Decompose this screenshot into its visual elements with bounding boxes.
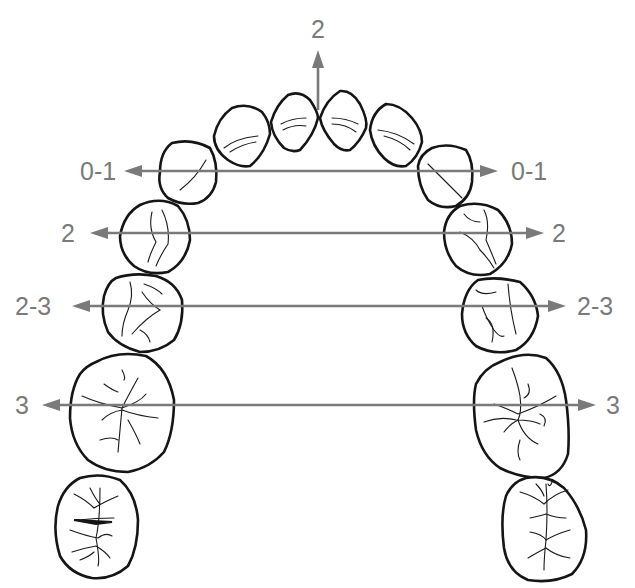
arrow-left-icon bbox=[90, 227, 108, 239]
midline-arrow: 2 bbox=[311, 15, 325, 110]
canine-left-label: 0-1 bbox=[80, 157, 116, 185]
first-premolar-left-label: 2 bbox=[61, 219, 75, 247]
tooth-central-incisor-left bbox=[271, 93, 318, 151]
tooth-first-molar-right bbox=[474, 355, 569, 478]
tooth-canine-right bbox=[418, 145, 472, 207]
arrow-right-icon bbox=[548, 300, 566, 312]
arrow-up-icon bbox=[312, 50, 324, 68]
tooth-second-premolar-left bbox=[103, 274, 183, 352]
tooth-second-premolar-right bbox=[462, 278, 538, 352]
tooth-lateral-incisor-left bbox=[214, 106, 270, 167]
dental-arch-diagram: 2 0-1 0-1 2 2 2-3 2-3 3 3 bbox=[0, 0, 635, 588]
canine-right-label: 0-1 bbox=[511, 157, 547, 185]
tooth-canine-left bbox=[159, 141, 216, 203]
arrow-left-icon bbox=[72, 300, 90, 312]
arrow-right-icon bbox=[578, 399, 596, 411]
tooth-first-premolar-right bbox=[444, 204, 512, 275]
midline-label: 2 bbox=[311, 15, 325, 43]
first-molar-left-label: 3 bbox=[15, 391, 29, 419]
arrow-left-icon bbox=[42, 399, 60, 411]
second-premolar-right-label: 2-3 bbox=[577, 292, 613, 320]
tooth-first-premolar-left bbox=[120, 201, 190, 273]
tooth-second-molar-left bbox=[55, 475, 138, 578]
first-molar-right-label: 3 bbox=[606, 391, 620, 419]
tooth-lateral-incisor-right bbox=[370, 104, 422, 166]
tooth-central-incisor-right bbox=[320, 91, 366, 150]
second-premolar-left-label: 2-3 bbox=[15, 292, 51, 320]
teeth bbox=[55, 91, 586, 581]
first-premolar-right-label: 2 bbox=[552, 219, 566, 247]
arrow-right-icon bbox=[526, 227, 544, 239]
arrow-right-icon bbox=[480, 165, 498, 177]
arch-width-arrow-canines: 0-1 0-1 bbox=[80, 157, 547, 185]
arrow-left-icon bbox=[124, 165, 142, 177]
